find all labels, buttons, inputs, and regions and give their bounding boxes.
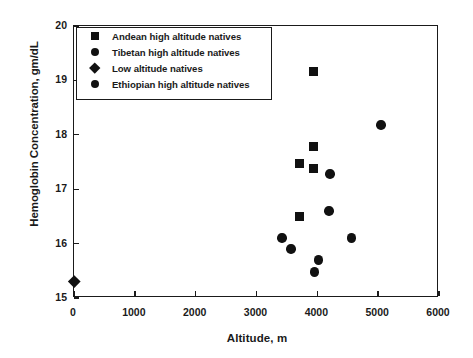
square-icon	[91, 32, 99, 40]
data-point-diamond	[68, 276, 80, 288]
y-tick-label: 18	[33, 128, 67, 140]
data-point-square	[309, 67, 318, 76]
legend-item-label: Ethiopian high altitude natives	[112, 79, 250, 90]
x-tick-label: 6000	[413, 306, 463, 318]
legend-item: Low altitude natives	[77, 60, 271, 76]
x-axis-title: Altitude, m	[78, 332, 436, 344]
legend-item-label: Low altitude natives	[112, 63, 203, 74]
data-point-square	[309, 142, 318, 151]
y-tick-label: 15	[33, 291, 67, 303]
data-point-circle	[310, 267, 320, 277]
circle-icon	[91, 48, 100, 57]
x-tick-label: 5000	[352, 306, 402, 318]
chart-legend: Andean high altitude nativesTibetan high…	[76, 27, 272, 100]
x-tick-label: 1000	[109, 306, 159, 318]
data-point-square	[295, 159, 304, 168]
data-point-square	[295, 212, 304, 221]
diamond-icon	[90, 63, 101, 74]
x-tick-label: 2000	[170, 306, 220, 318]
data-point-square	[309, 164, 318, 173]
x-tick-label: 4000	[291, 306, 341, 318]
x-tick-label: 0	[48, 306, 98, 318]
x-tick-mark	[317, 291, 318, 296]
y-tick-mark	[74, 134, 79, 135]
x-tick-mark	[438, 291, 439, 296]
legend-marker-diamond-icon	[87, 64, 103, 72]
legend-item-label: Andean high altitude natives	[112, 31, 241, 42]
data-point-circle	[347, 233, 357, 243]
legend-item-label: Tibetan high altitude natives	[112, 47, 240, 58]
y-tick-label: 19	[33, 73, 67, 85]
x-tick-mark	[73, 291, 74, 296]
data-point-circle	[325, 169, 335, 179]
legend-marker-square-icon	[87, 32, 103, 40]
data-point-circle	[314, 255, 324, 265]
y-tick-mark	[74, 189, 79, 190]
x-tick-mark	[256, 291, 257, 296]
legend-item: Ethiopian high altitude natives	[77, 76, 271, 92]
scatter-chart-figure: Hemoglobin Concentration, gm/dL Altitude…	[0, 0, 473, 358]
data-point-circle	[277, 233, 287, 243]
data-point-circle	[324, 206, 334, 216]
legend-marker-circle-icon	[87, 80, 103, 89]
x-tick-mark	[377, 291, 378, 296]
x-tick-mark	[195, 291, 196, 296]
x-tick-label: 3000	[231, 306, 281, 318]
y-tick-mark	[74, 297, 79, 298]
y-tick-label: 17	[33, 182, 67, 194]
y-tick-mark	[74, 243, 79, 244]
data-point-circle	[376, 120, 386, 130]
x-tick-mark	[134, 291, 135, 296]
y-tick-label: 20	[33, 19, 67, 31]
legend-marker-circle-icon	[87, 48, 103, 57]
data-point-circle	[286, 244, 296, 254]
legend-item: Andean high altitude natives	[77, 28, 271, 44]
y-tick-label: 16	[33, 237, 67, 249]
legend-item: Tibetan high altitude natives	[77, 44, 271, 60]
circle-icon	[91, 80, 100, 89]
